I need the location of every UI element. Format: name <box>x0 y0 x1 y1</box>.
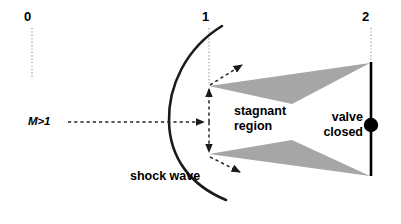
valve-label-line1: valve <box>283 110 363 124</box>
station-1-label: 1 <box>202 10 209 25</box>
station-2-label: 2 <box>362 10 369 25</box>
lower-stagnant-triangle <box>209 140 370 176</box>
upper-stagnant-triangle <box>209 63 370 104</box>
valve-assembly <box>364 62 378 176</box>
shock-wave-label: shock wave <box>130 169 200 183</box>
lower-deflected-flow-arrow <box>210 157 240 172</box>
valve-knob-icon <box>364 118 378 132</box>
stagnant-region-label-line1: stagnant <box>234 104 286 118</box>
shock-wave-diagram: 0 1 2 M>1 stagnant region valve closed s… <box>0 0 401 224</box>
valve-label-line2: closed <box>283 125 363 139</box>
stagnant-region-label-line2: region <box>234 119 272 133</box>
station-0-label: 0 <box>24 10 31 25</box>
mach-number-label: M>1 <box>28 115 50 128</box>
